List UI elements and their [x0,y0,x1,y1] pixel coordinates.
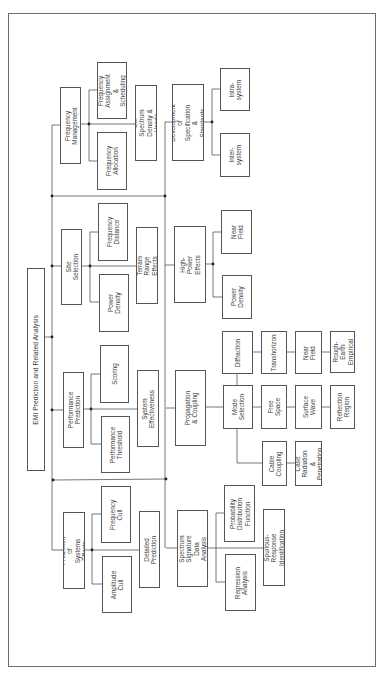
box-site-selection: Site Selection [61,229,82,305]
box-power-density-site: Power Density [99,274,129,332]
label-scoring: Scoring [111,363,118,385]
label-frequency-allocation: Frequency Allocation [105,146,120,176]
box-rough-earth-empirical: Rough-Earth Empirical [330,331,355,373]
box-intra-system: Intra- system [220,68,250,111]
box-propagation-coupling: Propagation & Coupling [175,370,206,446]
title-box: EMI Prediction and Related Analysis [27,268,45,471]
label-probability-distribution-function: Probability Distribution Function [228,498,250,530]
label-performance-threshold: Performance Threshold [108,426,123,463]
box-mode-selection: Mode Selection [223,385,253,429]
label-frequency-assignment-scheduling: Frequency Assignment & Scheduling [97,74,127,107]
box-case-radiation-penetration: Case Radiation & Penetration [295,441,322,486]
box-transhorizon: Transhorizon [261,331,287,374]
box-spectrum-signature-data-analysis: Spectrum Signature Data Analysis [177,510,208,587]
label-surface-wave: Surface Wave [301,396,316,418]
box-power-density-high-power: Power Density [222,275,252,319]
box-development-of-specification-standards: Development of Specification & Standards [172,84,204,161]
label-performance-prediction: Performance Prediction [66,392,81,429]
label-power-density-site: Power Density [107,292,122,313]
box-terrain-range-effects: Terrain Range Effects [136,227,158,304]
box-frequency-distance: Frequency Distance [98,203,128,261]
label-terrain-range-effects: Terrain Range Effects [136,256,158,276]
label-case-radiation-penetration: Case Radiation & Penetration [295,447,322,480]
box-frequency-assignment-scheduling: Frequency Assignment & Scheduling [97,62,127,119]
label-development-of-specification-standards: Development of Specification & Standards [172,104,204,142]
box-frequency-cull: Frequency Cull [101,486,131,543]
box-regression-analysis: Regression Analysis [225,554,256,611]
box-detailed-prediction: Detailed Prediction [139,511,160,588]
label-prediction-of-systems-effects: Prediction of Systems Effects [63,536,85,564]
box-probability-distribution-function: Probability Distribution Function [224,485,255,542]
box-frequency-allocation: Frequency Allocation [97,132,127,190]
box-near-field: Near Field [295,331,322,374]
label-cable-coupling: Cable Coupling [267,451,282,476]
label-reflection-region: Reflection Region [335,393,350,421]
label-system-effectiveness: System Effectiveness [141,390,156,428]
label-diffraction: Diffraction [234,338,241,367]
box-surface-wave: Surface Wave [295,385,322,429]
label-frequency-distance: Frequency Distance [106,217,121,247]
label-frequency-management: Frequency Management [63,107,78,144]
label-high-power-effects: High-Power Effects [179,255,201,274]
box-amplitude-cull: Amplitude Cull [102,556,132,613]
box-performance-prediction: Performance Prediction [63,372,84,448]
label-spectrum-signature-data-analysis: Spectrum Signature Data Analysis [178,535,208,562]
box-prediction-of-systems-effects: Prediction of Systems Effects [63,512,85,589]
label-near-field-high-power: Near Field [229,225,244,239]
label-regression-analysis: Regression Analysis [233,566,248,598]
diagram-title: EMI Prediction and Related Analysis [32,315,39,425]
label-transhorizon: Transhorizon [270,334,277,371]
label-spurious-response-identification: Spurious-Response Identification [263,530,285,566]
label-propagation-coupling: Propagation & Coupling [183,391,198,425]
box-cable-coupling: Cable Coupling [262,441,287,486]
label-intra-system: Intra- system [228,79,243,99]
box-frequency-management: Frequency Management [60,87,81,164]
box-free-space: Free Space [261,385,287,429]
label-near-field: Near Field [301,346,316,360]
box-system-effectiveness: System Effectiveness [137,370,159,447]
label-frequency-cull: Frequency Cull [109,499,124,529]
label-detailed-prediction: Detailed Prediction [142,535,157,563]
box-performance-threshold: Performance Threshold [101,416,130,473]
box-spurious-response-identification: Spurious-Response Identification [263,509,285,586]
label-em-spectrum-density-usage: EM Spectrum Density & Usage [135,109,157,136]
label-power-density-high-power: Power Density [230,286,245,307]
box-inter-system: Inter- system [220,133,250,177]
box-reflection-region: Reflection Region [330,385,355,429]
label-site-selection: Site Selection [64,254,79,280]
box-em-spectrum-density-usage: EM Spectrum Density & Usage [135,85,157,161]
label-inter-system: Inter- system [228,145,243,165]
box-high-power-effects: High-Power Effects [174,226,206,303]
label-rough-earth-empirical: Rough-Earth Empirical [331,339,353,365]
box-near-field-high-power: Near Field [221,210,252,254]
box-scoring: Scoring [100,345,129,403]
box-diffraction: Diffraction [222,331,253,374]
label-amplitude-cull: Amplitude Cull [110,570,125,598]
label-mode-selection: Mode Selection [231,394,246,420]
label-free-space: Free Space [267,398,282,416]
